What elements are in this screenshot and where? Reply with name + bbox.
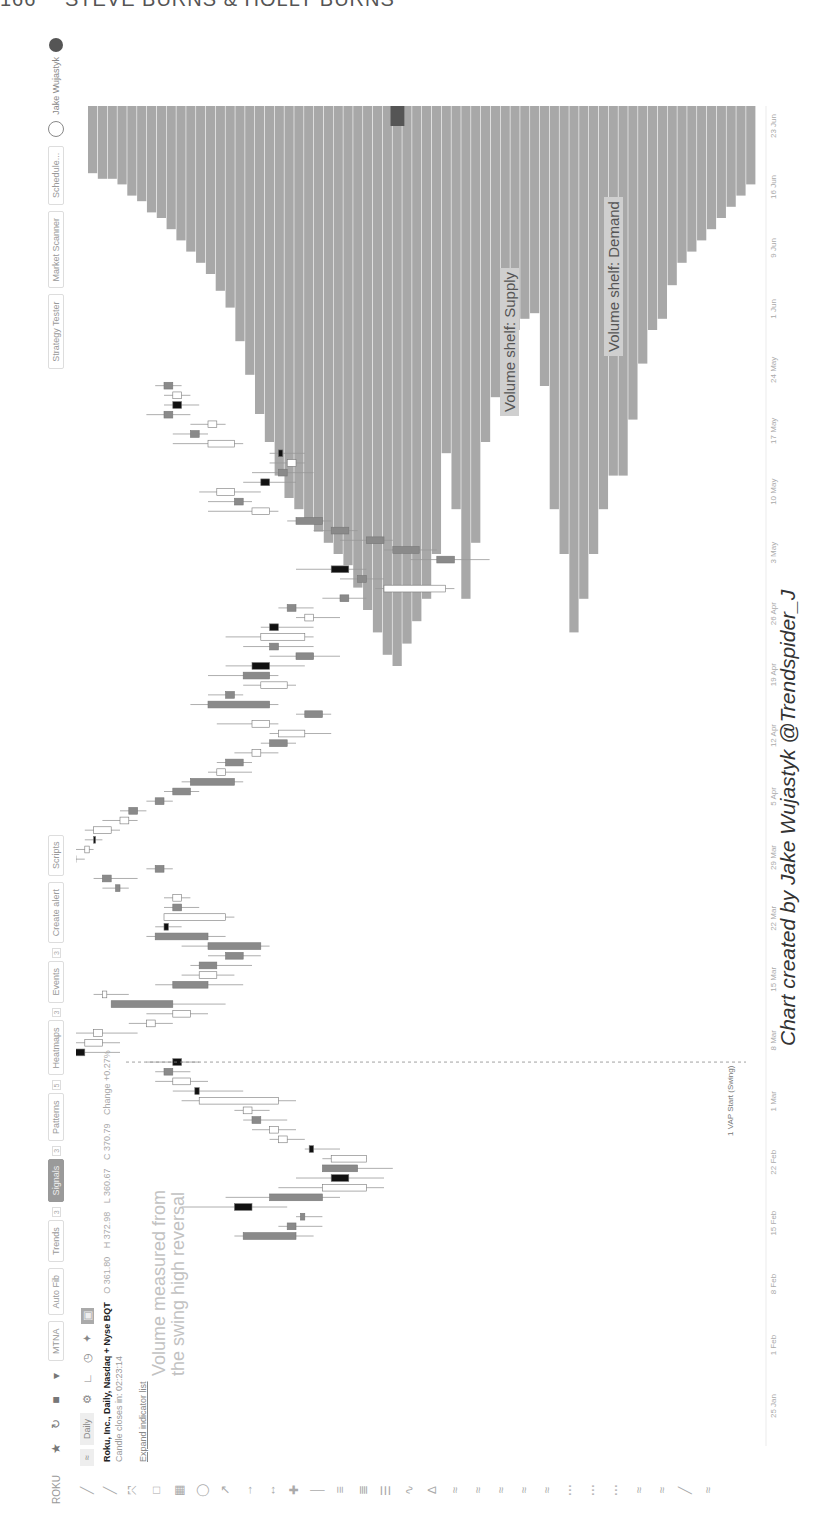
drawing-tool-16-icon[interactable]: ∆ <box>421 1475 444 1505</box>
drawing-tool-3-icon[interactable]: ⤧ <box>122 1475 145 1505</box>
strategy-tester-button[interactable]: Strategy Tester <box>48 294 64 368</box>
dropdown-icon[interactable]: ▾ <box>49 1367 63 1385</box>
signals-button[interactable]: Signals <box>48 1159 64 1203</box>
events-count: 3 <box>52 948 61 958</box>
drawing-tool-22-icon[interactable]: ⋯ <box>559 1475 582 1505</box>
drawing-tool-9-icon[interactable]: ↔ <box>260 1475 283 1505</box>
volume-profile-bar <box>284 106 293 498</box>
poc-marker <box>391 106 405 126</box>
pin-icon[interactable]: ✦ <box>81 1334 94 1343</box>
scripts-button[interactable]: Scripts <box>48 835 64 877</box>
drawing-tool-8-icon[interactable]: → <box>237 1475 260 1505</box>
candle-body <box>384 585 446 592</box>
volume-profile-bar <box>334 106 343 554</box>
candle-body <box>94 836 96 843</box>
swing-annotation-line1: Volume measured from <box>150 1190 169 1376</box>
drawing-tool-10-icon[interactable]: ✚ <box>283 1475 306 1505</box>
chart-type-icon[interactable]: ■ <box>49 1391 63 1409</box>
refresh-icon[interactable]: ↻ <box>49 1415 63 1433</box>
x-axis-tick: 22 Feb <box>769 1149 778 1174</box>
volume-profile-bar <box>294 106 303 509</box>
swing-annotation: Volume measured from the swing high reve… <box>150 1190 188 1376</box>
x-axis-tick: 8 Feb <box>769 1273 778 1294</box>
globe-icon[interactable] <box>48 121 64 137</box>
star-icon[interactable]: ★ <box>49 1439 63 1457</box>
schedule-button[interactable]: Schedule... <box>48 146 64 205</box>
drawing-tool-18-icon[interactable]: ≈ <box>467 1475 490 1505</box>
compare-button[interactable]: ≈ <box>80 1449 94 1466</box>
drawing-tool-5-icon[interactable]: ▦ <box>168 1475 191 1505</box>
drawing-tool-20-icon[interactable]: ≈ <box>513 1475 536 1505</box>
x-axis-tick: 15 Feb <box>769 1210 778 1235</box>
volume-profile-bar <box>186 106 195 252</box>
candle-body <box>226 952 244 959</box>
drawing-tool-13-icon[interactable]: ≣ <box>352 1475 375 1505</box>
candle-body <box>208 701 270 708</box>
drawing-tool-4-icon[interactable]: □ <box>145 1475 168 1505</box>
patterns-button[interactable]: Patterns <box>48 1093 64 1141</box>
candle-body <box>270 740 288 747</box>
drawing-tool-27-icon[interactable]: ╱ <box>674 1475 697 1505</box>
chart-area[interactable]: 25 Jan1 Feb8 Feb15 Feb22 Feb1 Mar8 Mar15… <box>76 66 796 1466</box>
drawing-tool-7-icon[interactable]: ↗ <box>214 1475 237 1505</box>
market-scanner-button[interactable]: Market Scanner <box>48 211 64 289</box>
demand-shelf-label: Volume shelf: Demand <box>604 197 623 356</box>
volume-profile-bar <box>206 106 215 274</box>
candle-body <box>331 527 349 534</box>
volume-profile-bar <box>393 106 402 666</box>
drawing-tool-28-icon[interactable]: ≈ <box>697 1475 720 1505</box>
candle-body <box>111 1001 173 1008</box>
drawing-tool-24-icon[interactable]: ⋯ <box>605 1475 628 1505</box>
symbol-search[interactable]: ROKU <box>51 1460 62 1510</box>
drawing-tool-17-icon[interactable]: ≈ <box>444 1475 467 1505</box>
events-button[interactable]: Events <box>48 961 64 1003</box>
drawing-tool-12-icon[interactable]: ≡ <box>329 1475 352 1505</box>
chart-subbar: ≈ Daily ⚙ ∟ ◷ ✦ ▣ <box>76 1303 98 1466</box>
interval-select[interactable]: Daily <box>80 1413 94 1445</box>
candle-body <box>261 634 305 641</box>
candle-body <box>173 904 182 911</box>
x-axis-tick: 25 Jan <box>769 1394 778 1418</box>
trends-button[interactable]: Trends <box>48 1220 64 1262</box>
drawing-tool-23-icon[interactable]: ⋯ <box>582 1475 605 1505</box>
candle-body <box>252 749 261 756</box>
avatar[interactable] <box>49 38 63 52</box>
candle-body <box>173 788 191 795</box>
drawing-tool-26-icon[interactable]: ≈ <box>651 1475 674 1505</box>
volume-profile-bar <box>98 106 107 179</box>
create-alert-button[interactable]: Create alert <box>48 882 64 943</box>
candle-body <box>102 875 111 882</box>
volume-profile-bar <box>736 106 745 196</box>
drawing-tool-6-icon[interactable]: ◯ <box>191 1475 214 1505</box>
top-toolbar: ROKU ★ ↻ ■ ▾ MTNA Auto Fib Trends 3 Sign… <box>38 30 74 1510</box>
candle-body <box>309 1146 313 1153</box>
drawing-tool-2-icon[interactable]: ╱ <box>99 1475 122 1505</box>
candle-body <box>287 605 296 612</box>
camera-icon[interactable]: ▣ <box>81 1308 94 1324</box>
legend-change: Change +0.27% <box>102 1050 112 1115</box>
drawing-tool-14-icon[interactable]: ☰ <box>375 1475 398 1505</box>
signals-count: 3 <box>52 1146 61 1156</box>
volume-profile-bar <box>226 106 235 308</box>
drawing-tool-21-icon[interactable]: ≈ <box>536 1475 559 1505</box>
clock-icon[interactable]: ◷ <box>81 1353 94 1363</box>
auto-fib-button[interactable]: Auto Fib <box>48 1268 64 1316</box>
heatmaps-button[interactable]: Heatmaps <box>48 1020 64 1075</box>
page-authors: STEVE BURNS & HOLLY BURNS <box>65 0 395 10</box>
candle-body <box>164 382 173 389</box>
settings-icon[interactable]: ⚙ <box>81 1394 94 1404</box>
expand-indicator-link[interactable]: Expand indicator list <box>138 1381 148 1462</box>
candle-body <box>199 962 217 969</box>
candle-body <box>208 440 234 447</box>
volume-profile-bar <box>137 106 146 201</box>
mtna-button[interactable]: MTNA <box>48 1322 64 1362</box>
user-menu[interactable]: Jake Wujastyk <box>49 38 63 115</box>
drawing-tool-25-icon[interactable]: ≈ <box>628 1475 651 1505</box>
magnet-icon[interactable]: ∟ <box>81 1373 93 1384</box>
drawing-tool-19-icon[interactable]: ≈ <box>490 1475 513 1505</box>
candle-body <box>393 547 419 554</box>
drawing-tool-11-icon[interactable]: │ <box>306 1475 329 1505</box>
chart-legend: Roku, Inc., Daily, Nasdaq + Nyse BQT O 3… <box>102 1050 112 1462</box>
drawing-tool-15-icon[interactable]: ∿ <box>398 1475 421 1505</box>
drawing-tool-1-icon[interactable]: ╱ <box>76 1475 99 1505</box>
